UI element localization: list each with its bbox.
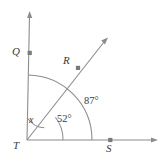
geometry-figure: Q R T S x 52° 87° (0, 0, 164, 158)
angle-label-87: 87° (84, 96, 99, 107)
point-marker-q (28, 51, 32, 55)
angle-label-52: 52° (57, 114, 72, 125)
point-label-s: S (106, 143, 112, 154)
ray-ts-arrowhead (151, 138, 158, 143)
arc-angle-87 (28, 75, 92, 140)
point-marker-r (76, 66, 80, 70)
figure-canvas (0, 0, 164, 158)
point-label-q: Q (12, 46, 20, 57)
point-label-r: R (63, 55, 70, 66)
ray-tr-arrowhead (101, 38, 108, 45)
angle-label-x: x (29, 114, 33, 125)
ray-tq-arrowhead (27, 11, 32, 18)
point-label-t: T (13, 140, 19, 151)
